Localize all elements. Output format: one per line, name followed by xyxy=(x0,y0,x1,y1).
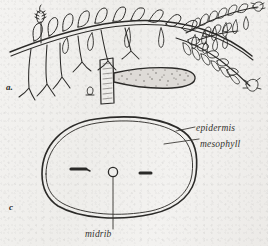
midrib-vein-circle xyxy=(108,167,117,176)
panel-b-sporangium xyxy=(114,68,195,88)
panel-label-a: a. xyxy=(6,83,13,92)
panel-c-leaf-section xyxy=(42,117,199,229)
lateral-vein-marks xyxy=(71,169,151,173)
panel-b-marker xyxy=(86,87,94,95)
mesophyll-boundary xyxy=(46,121,193,214)
annotation-midrib: midrib xyxy=(85,230,112,240)
epidermis-outline xyxy=(42,117,197,218)
botanical-figure: a. c epidermis mesophyll midrib xyxy=(0,0,268,246)
panel-b-sporophyll xyxy=(100,58,114,104)
roots xyxy=(19,28,139,100)
stem-underside-leaves xyxy=(63,28,164,53)
annotation-epidermis: epidermis xyxy=(196,124,235,134)
panel-label-c: c xyxy=(9,203,13,212)
annotation-mesophyll: mesophyll xyxy=(200,140,240,150)
terminal-strobili xyxy=(243,2,265,91)
